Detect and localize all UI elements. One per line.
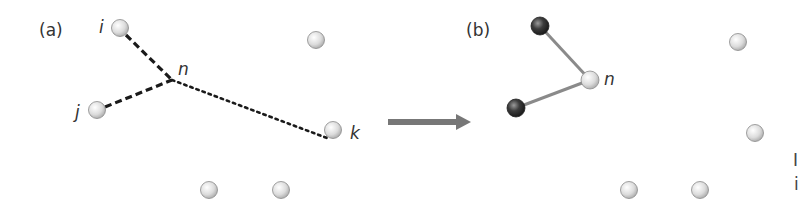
edge-j-n — [105, 80, 172, 107]
node-j-label: j — [73, 102, 80, 122]
cut-off-text-1: I — [793, 150, 798, 170]
node-k-label: k — [350, 123, 361, 143]
diagram-canvas: (a) i j k n (b) n I i — [0, 0, 800, 203]
junction-n-label: n — [178, 59, 189, 79]
panel-b-label: (b) — [466, 20, 490, 40]
panel-b-nodes — [507, 17, 764, 199]
node-j — [89, 102, 106, 119]
node-i-label: i — [99, 17, 104, 37]
node-k — [325, 122, 342, 139]
cut-off-text-2: i — [794, 174, 799, 194]
node-b-bottom-right — [692, 182, 709, 199]
edge-btop-n — [540, 26, 590, 80]
edge-bbottom-n — [516, 80, 590, 108]
node-n-label: n — [604, 69, 615, 89]
transition-arrow-icon — [388, 114, 471, 130]
diagram-svg: (a) i j k n (b) n I i — [0, 0, 800, 203]
node-i — [112, 20, 129, 37]
node-a-bottom-left — [201, 182, 218, 199]
panel-a-nodes — [89, 20, 342, 199]
panel-a-label: (a) — [39, 20, 63, 40]
panel-a-edges — [105, 35, 327, 138]
edge-i-n — [126, 35, 172, 80]
node-b-top-right — [730, 34, 747, 51]
node-b-bottom-left — [621, 182, 638, 199]
node-a-bottom-right — [273, 182, 290, 199]
node-b-dark-bottom — [507, 99, 525, 117]
node-n — [581, 71, 599, 89]
node-b-right — [747, 125, 764, 142]
edge-n-k — [172, 80, 327, 138]
node-a-top-right — [308, 32, 325, 49]
node-b-dark-top — [531, 17, 549, 35]
panel-b-edges — [516, 26, 590, 108]
